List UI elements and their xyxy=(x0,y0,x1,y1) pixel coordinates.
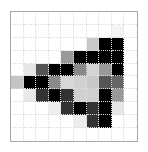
grid-cell-r0-c0 xyxy=(11,12,24,25)
grid-cell-r8-c1 xyxy=(24,115,37,128)
grid-cell-r0-c4 xyxy=(61,12,74,25)
grid-cell-r0-c8 xyxy=(112,12,125,25)
grid-cell-r2-c8 xyxy=(112,38,125,51)
grid-cell-r6-c9 xyxy=(124,89,137,102)
grid-cell-r0-c1 xyxy=(24,12,37,25)
grid-cell-r9-c4 xyxy=(61,128,74,141)
grid-cell-r4-c4 xyxy=(61,64,74,77)
grid-cell-r7-c8 xyxy=(112,102,125,115)
grid-cell-r4-c5 xyxy=(74,64,87,77)
grid-cell-r5-c7 xyxy=(99,76,112,89)
grid-cell-r4-c2 xyxy=(36,64,49,77)
grid-cell-r2-c7 xyxy=(99,38,112,51)
grid-cell-r3-c1 xyxy=(24,51,37,64)
grid-cell-r6-c8 xyxy=(112,89,125,102)
grid-cell-r5-c0 xyxy=(11,76,24,89)
grid-cell-r5-c3 xyxy=(49,76,62,89)
grid-cell-r4-c3 xyxy=(49,64,62,77)
grid-cell-r5-c8 xyxy=(112,76,125,89)
grid-cell-r1-c8 xyxy=(112,25,125,38)
grid-cell-r1-c2 xyxy=(36,25,49,38)
grid-cell-r7-c2 xyxy=(36,102,49,115)
grid-cell-r4-c6 xyxy=(87,64,100,77)
grid-cell-r6-c5 xyxy=(74,89,87,102)
grid-cell-r6-c4 xyxy=(61,89,74,102)
grid-cell-r5-c2 xyxy=(36,76,49,89)
grid-cell-r7-c4 xyxy=(61,102,74,115)
grid-cell-r9-c0 xyxy=(11,128,24,141)
grid-cell-r6-c3 xyxy=(49,89,62,102)
grid-cell-r6-c1 xyxy=(24,89,37,102)
pixel-grid-canvas xyxy=(0,0,148,152)
grid-cell-r0-c6 xyxy=(87,12,100,25)
grid-cell-r9-c2 xyxy=(36,128,49,141)
grid-cell-r8-c6 xyxy=(87,115,100,128)
grid-cell-r6-c0 xyxy=(11,89,24,102)
grid-cell-r1-c4 xyxy=(61,25,74,38)
grid-cell-r5-c5 xyxy=(74,76,87,89)
grid-cell-r9-c1 xyxy=(24,128,37,141)
grid-cell-r4-c1 xyxy=(24,64,37,77)
grid-cell-r0-c5 xyxy=(74,12,87,25)
grid-cell-r9-c5 xyxy=(74,128,87,141)
grid-cell-r8-c2 xyxy=(36,115,49,128)
grid-cell-r2-c9 xyxy=(124,38,137,51)
grid-cell-r7-c0 xyxy=(11,102,24,115)
grid-cell-r8-c4 xyxy=(61,115,74,128)
grid-cell-r7-c3 xyxy=(49,102,62,115)
grid-cell-r7-c9 xyxy=(124,102,137,115)
grid-cell-r3-c5 xyxy=(74,51,87,64)
grid-cell-r2-c1 xyxy=(24,38,37,51)
grid-cell-r9-c8 xyxy=(112,128,125,141)
grid-cell-r8-c3 xyxy=(49,115,62,128)
grid-cell-r7-c1 xyxy=(24,102,37,115)
grid-cell-r5-c9 xyxy=(124,76,137,89)
grid-cell-r4-c7 xyxy=(99,64,112,77)
grid-cell-r6-c2 xyxy=(36,89,49,102)
grid-cell-r3-c6 xyxy=(87,51,100,64)
grid-cell-r3-c3 xyxy=(49,51,62,64)
grid-cell-r3-c2 xyxy=(36,51,49,64)
grid-cell-r7-c6 xyxy=(87,102,100,115)
grid-cell-r1-c6 xyxy=(87,25,100,38)
grid-cell-r1-c3 xyxy=(49,25,62,38)
grid-cell-r2-c3 xyxy=(49,38,62,51)
grid-cell-r7-c7 xyxy=(99,102,112,115)
grid-cell-r0-c7 xyxy=(99,12,112,25)
grid-cell-r5-c1 xyxy=(24,76,37,89)
grid-cell-r0-c2 xyxy=(36,12,49,25)
grid-cell-r0-c3 xyxy=(49,12,62,25)
grid-cell-r4-c9 xyxy=(124,64,137,77)
grid-cell-r1-c7 xyxy=(99,25,112,38)
grid-cell-r8-c7 xyxy=(99,115,112,128)
grid-cell-r8-c0 xyxy=(11,115,24,128)
grid-cell-r1-c5 xyxy=(74,25,87,38)
grid-cell-r7-c5 xyxy=(74,102,87,115)
grid-cell-r9-c3 xyxy=(49,128,62,141)
grid-cell-r5-c6 xyxy=(87,76,100,89)
pixel-grid xyxy=(10,11,138,142)
grid-cell-r2-c4 xyxy=(61,38,74,51)
grid-cell-r3-c4 xyxy=(61,51,74,64)
grid-cell-r1-c0 xyxy=(11,25,24,38)
grid-cell-r3-c0 xyxy=(11,51,24,64)
grid-cell-r2-c2 xyxy=(36,38,49,51)
grid-cell-r3-c8 xyxy=(112,51,125,64)
grid-cell-r1-c9 xyxy=(124,25,137,38)
grid-cell-r9-c9 xyxy=(124,128,137,141)
grid-cell-r8-c8 xyxy=(112,115,125,128)
grid-cell-r6-c7 xyxy=(99,89,112,102)
grid-cell-r5-c4 xyxy=(61,76,74,89)
grid-cell-r4-c0 xyxy=(11,64,24,77)
grid-cell-r9-c6 xyxy=(87,128,100,141)
grid-cell-r9-c7 xyxy=(99,128,112,141)
grid-cell-r1-c1 xyxy=(24,25,37,38)
grid-cell-r8-c5 xyxy=(74,115,87,128)
grid-cell-r2-c6 xyxy=(87,38,100,51)
grid-cell-r0-c9 xyxy=(124,12,137,25)
grid-cell-r3-c7 xyxy=(99,51,112,64)
grid-cell-r4-c8 xyxy=(112,64,125,77)
grid-cell-r2-c0 xyxy=(11,38,24,51)
grid-cell-r6-c6 xyxy=(87,89,100,102)
grid-cell-r8-c9 xyxy=(124,115,137,128)
